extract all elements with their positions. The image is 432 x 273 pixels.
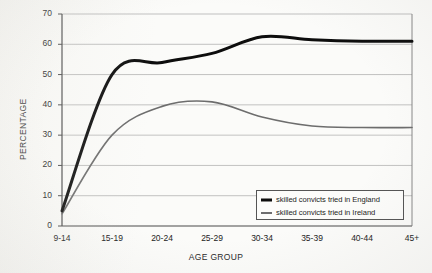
y-tick-label: 40 — [30, 99, 52, 109]
series-line-england — [62, 36, 412, 211]
y-tick-label: 0 — [30, 220, 52, 230]
x-tick-label: 25-29 — [190, 233, 234, 243]
y-tick-label: 60 — [30, 38, 52, 48]
y-tick-label: 30 — [30, 129, 52, 139]
y-tick-label: 10 — [30, 190, 52, 200]
x-tick-label: 40-44 — [340, 233, 384, 243]
chart-legend: skilled convicts tried in England skille… — [256, 190, 404, 220]
x-tick-label: 9-14 — [40, 233, 84, 243]
x-tick-label: 20-24 — [140, 233, 184, 243]
line-chart: PERCENTAGE AGE GROUP 010203040506070 9-1… — [0, 0, 432, 273]
y-tick-label: 50 — [30, 69, 52, 79]
y-tick-label: 20 — [30, 159, 52, 169]
legend-item-ireland: skilled convicts tried in Ireland — [260, 206, 400, 219]
legend-line-swatch-england-icon — [260, 193, 273, 206]
legend-item-england: skilled convicts tried in England — [260, 193, 400, 206]
series-layer — [62, 36, 412, 214]
x-axis-title: AGE GROUP — [0, 252, 432, 262]
x-tick-label: 45+ — [390, 233, 432, 243]
x-tick-label: 35-39 — [290, 233, 334, 243]
y-tick-label: 70 — [30, 8, 52, 18]
legend-label-ireland: skilled convicts tried in Ireland — [276, 208, 375, 217]
x-tick-label: 30-34 — [240, 233, 284, 243]
x-tick-label: 15-19 — [90, 233, 134, 243]
y-axis-title: PERCENTAGE — [18, 99, 28, 160]
legend-line-swatch-ireland-icon — [260, 206, 273, 219]
legend-label-england: skilled convicts tried in England — [276, 195, 380, 204]
